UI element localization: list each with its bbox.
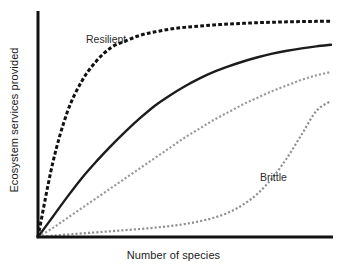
chart-plot-area (0, 0, 347, 270)
series-label-brittle: Brittle (260, 171, 287, 183)
y-axis-title-wrap: Ecosystem services provided (0, 0, 28, 240)
series-curve-brittle (38, 101, 331, 237)
series-curve-intermediate-dotted (38, 72, 331, 237)
chart-figure: Ecosystem services provided Number of sp… (0, 0, 347, 270)
curves-group (38, 21, 331, 237)
series-label-resilient: Resilient (86, 33, 126, 45)
x-axis-title: Number of species (0, 249, 347, 261)
y-axis-title: Ecosystem services provided (8, 47, 20, 192)
series-curve-intermediate-solid (38, 45, 331, 237)
axes-group (37, 11, 334, 238)
series-curve-resilient (38, 21, 331, 237)
